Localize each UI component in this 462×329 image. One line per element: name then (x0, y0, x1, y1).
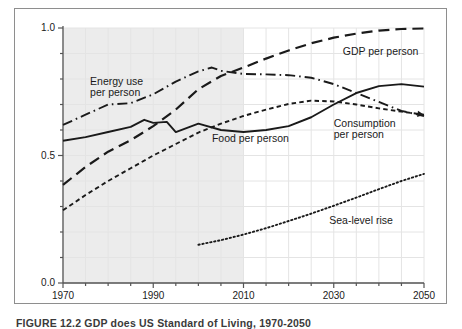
x-tick-label-1990: 1990 (137, 290, 169, 301)
y-tick-label-0-0: 0.0 (21, 277, 55, 288)
series-label-line: per person (90, 87, 143, 99)
series-label-line: per person (334, 129, 396, 141)
y-tick-label-1-0: 1.0 (21, 22, 55, 33)
x-tick-label-2010: 2010 (228, 290, 260, 301)
series-label-sea-level-rise: Sea-level rise (329, 215, 393, 227)
series-label-line: Sea-level rise (329, 215, 393, 227)
series-label-consumption-per-person: Consumptionper person (334, 118, 396, 141)
x-tick-label-1970: 1970 (47, 290, 79, 301)
series-label-energy-use-per-person: Energy useper person (90, 76, 143, 99)
series-label-food-per-person: Food per person (212, 133, 289, 145)
y-tick-label-0-5: 0.5 (21, 150, 55, 161)
series-label-gdp-per-person: GDP per person (343, 46, 419, 58)
figure-caption: FIGURE 12.2 GDP does US Standard of Livi… (16, 317, 446, 329)
x-tick-label-2050: 2050 (408, 290, 440, 301)
series-label-line: Food per person (212, 133, 289, 145)
figure-container: 197019902010203020500.00.51.0 GDP per pe… (0, 0, 462, 329)
series-label-line: GDP per person (343, 46, 419, 58)
x-tick-label-2030: 2030 (318, 290, 350, 301)
